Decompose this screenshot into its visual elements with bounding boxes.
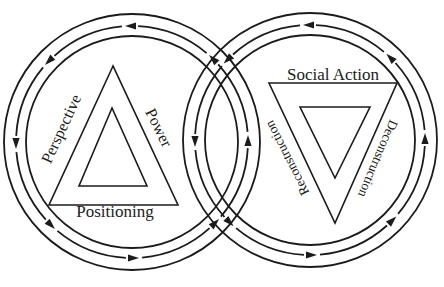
flow-arrow-arc xyxy=(221,148,248,217)
label-power: Power xyxy=(142,105,175,150)
flow-arrowhead-icon xyxy=(303,21,314,28)
flow-arrow-arc xyxy=(233,25,300,54)
flow-arrowhead-icon xyxy=(386,54,396,64)
label-positioning: Positioning xyxy=(76,202,154,221)
flow-arrowhead-icon xyxy=(191,136,198,147)
flow-arrow-arc xyxy=(54,26,122,55)
flow-arrowhead-icon xyxy=(128,254,139,261)
flow-arrow-arc xyxy=(16,152,45,220)
flow-arrow-arc xyxy=(16,67,43,135)
flow-arrow-arc xyxy=(320,226,387,255)
flow-arrowhead-icon xyxy=(386,216,396,226)
label-perspective: Perspective xyxy=(38,92,85,166)
left-inner-triangle xyxy=(79,108,147,186)
figure-canvas: Perspective Power Positioning Social Act… xyxy=(0,0,444,287)
flow-arrowhead-icon xyxy=(45,219,55,229)
flow-arrow-arc xyxy=(396,63,425,130)
label-deconstruction: Deconstruction xyxy=(355,118,401,200)
flow-arrow-arc xyxy=(142,228,210,257)
flow-arrow-arc xyxy=(138,26,207,53)
flow-arrowhead-icon xyxy=(244,135,251,146)
flow-arrow-arc xyxy=(57,231,126,258)
flow-arrowhead-icon xyxy=(12,138,19,149)
interlocking-cycles-diagram: Perspective Power Positioning Social Act… xyxy=(0,0,444,287)
flow-arrowhead-icon xyxy=(125,22,136,29)
label-social-action: Social Action xyxy=(287,65,380,84)
flow-arrowhead-icon xyxy=(45,55,55,65)
flow-arrowhead-icon xyxy=(421,133,428,144)
flow-arrow-arc xyxy=(195,150,224,217)
flow-arrow-arc xyxy=(218,64,247,131)
flow-arrowhead-icon xyxy=(306,251,317,258)
